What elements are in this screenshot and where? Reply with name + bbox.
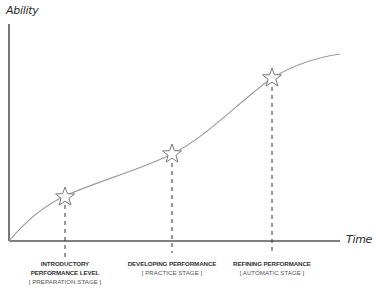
x-axis-label: Time [346, 233, 372, 246]
ability-curve [9, 54, 340, 241]
milestone-3-label: REFINING PERFORMANCE [ AUTOMATIC STAGE ] [207, 259, 337, 277]
star-icon [163, 144, 182, 162]
learning-curve-diagram [0, 0, 380, 290]
milestone-3-stage: [ AUTOMATIC STAGE ] [207, 268, 337, 277]
star-icon [56, 187, 75, 205]
y-axis-label: Ability [6, 4, 38, 17]
milestone-1-stage: [ PREPARATION STAGE ] [0, 277, 130, 286]
milestone-3-title: REFINING PERFORMANCE [207, 259, 337, 268]
